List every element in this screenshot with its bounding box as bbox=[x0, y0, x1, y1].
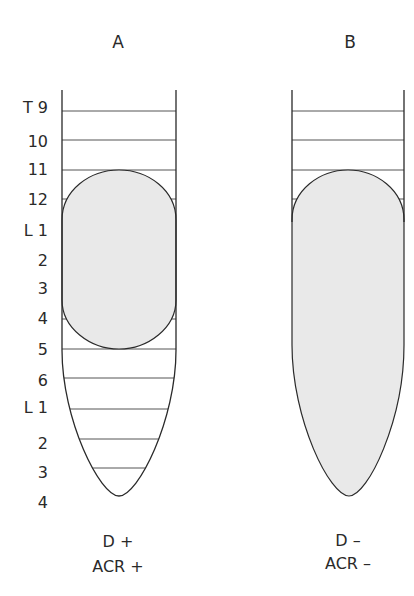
level-label: T 9 bbox=[22, 98, 48, 117]
level-label: 3 bbox=[38, 279, 48, 298]
level-label: 2 bbox=[38, 434, 48, 453]
level-label: 4 bbox=[38, 493, 48, 512]
panel-b bbox=[290, 90, 406, 496]
level-label: L 1 bbox=[24, 398, 48, 417]
panel-b-caption-line1: D – bbox=[335, 531, 360, 550]
panel-a-caption-line2: ACR + bbox=[92, 557, 143, 576]
level-label: L 1 bbox=[24, 221, 48, 240]
level-label: 3 bbox=[38, 463, 48, 482]
panel-b-fluid-region bbox=[292, 170, 404, 496]
level-label: 12 bbox=[28, 190, 48, 209]
panel-a-fluid-region bbox=[62, 170, 176, 349]
panel-b-caption-line2: ACR – bbox=[325, 554, 371, 573]
panel-b-title: B bbox=[344, 32, 356, 52]
spinal-level-diagram: A B T 9 10 11 12 L 1 2 3 4 5 6 L 1 2 3 4 bbox=[0, 0, 414, 596]
panel-a-caption-line1: D + bbox=[103, 532, 134, 551]
level-label: 2 bbox=[38, 251, 48, 270]
level-label: 10 bbox=[28, 132, 48, 151]
vertebral-level-labels: T 9 10 11 12 L 1 2 3 4 5 6 L 1 2 3 4 bbox=[22, 98, 48, 512]
panel-a bbox=[60, 90, 180, 496]
level-label: 6 bbox=[38, 371, 48, 390]
level-label: 4 bbox=[38, 309, 48, 328]
level-label: 5 bbox=[38, 340, 48, 359]
level-label: 11 bbox=[28, 160, 48, 179]
panel-a-title: A bbox=[112, 32, 124, 52]
